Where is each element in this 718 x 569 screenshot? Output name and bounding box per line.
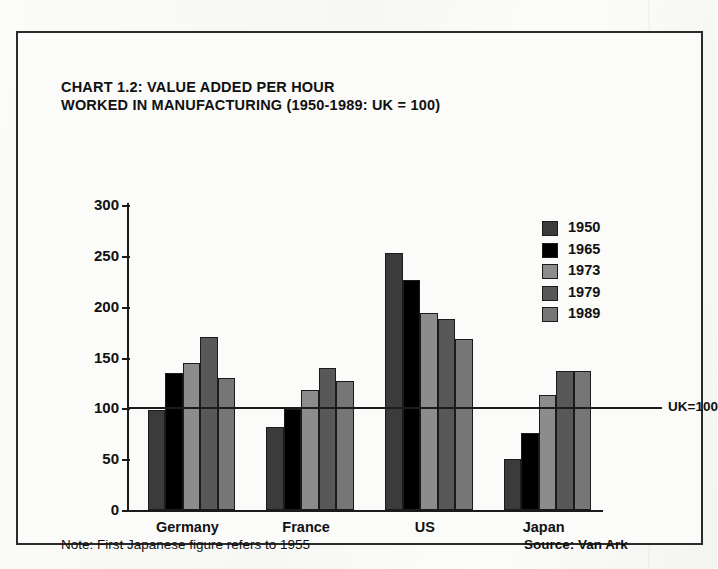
bar-us-1950 [385,253,403,510]
bar-france-1950 [266,427,284,510]
y-tick-label: 50 [102,450,119,467]
x-category-label: Japan [484,519,603,535]
legend-label: 1965 [568,241,600,257]
legend-item-1979: 1979 [542,284,652,306]
page-title: CHART 1.2: VALUE ADDED PER HOUR WORKED I… [61,78,440,114]
legend-item-1989: 1989 [542,305,652,327]
y-tick-label: 200 [94,298,119,315]
bar-group [148,205,236,510]
y-tick-label: 100 [94,399,119,416]
chart-source: Source: Van Ark [524,537,628,552]
bar-japan-1965 [521,433,539,510]
legend-swatch-icon [542,286,558,301]
reference-line-label: UK=100 [668,399,718,414]
bar-france-1965 [284,409,302,510]
chart-note: Note: First Japanese figure refers to 19… [61,537,310,552]
legend-label: 1989 [568,305,600,321]
x-category-label: France [247,519,366,535]
y-tick-label: 300 [94,196,119,213]
reference-line [128,407,662,409]
plot-area [128,205,603,510]
legend-item-1973: 1973 [542,262,652,284]
bar-group [385,205,473,510]
y-tick-label: 250 [94,247,119,264]
bar-group [266,205,354,510]
legend-item-1965: 1965 [542,241,652,263]
bar-germany-1989 [218,378,236,510]
title-line-1: CHART 1.2: VALUE ADDED PER HOUR [61,79,335,95]
bar-us-1973 [420,313,438,510]
chart-frame: CHART 1.2: VALUE ADDED PER HOUR WORKED I… [16,31,703,545]
bar-us-1989 [455,339,473,510]
legend-label: 1979 [568,284,600,300]
bar-japan-1973 [539,395,557,510]
legend-swatch-icon [542,221,558,236]
bar-germany-1979 [200,337,218,510]
bar-us-1965 [403,280,421,510]
y-tick-label: 150 [94,349,119,366]
bar-japan-1979 [556,371,574,510]
title-line-2: WORKED IN MANUFACTURING (1950-1989: UK =… [61,97,440,113]
bar-us-1979 [438,319,456,510]
bar-france-1979 [319,368,337,510]
bar-japan-1989 [574,371,592,510]
legend-item-1950: 1950 [542,219,652,241]
bar-germany-1965 [165,373,183,510]
y-tick-label: 0 [111,501,119,518]
bar-germany-1950 [148,410,166,510]
legend-label: 1950 [568,219,600,235]
legend-swatch-icon [542,264,558,279]
bar-germany-1973 [183,363,201,510]
y-axis-labels: 050100150200250300 [71,205,119,510]
bar-japan-1950 [504,459,522,510]
legend-label: 1973 [568,262,600,278]
bar-france-1989 [336,381,354,510]
x-category-label: US [366,519,485,535]
x-axis-line [127,510,603,512]
legend-swatch-icon [542,307,558,322]
legend: 19501965197319791989 [542,219,652,327]
legend-swatch-icon [542,243,558,258]
x-category-label: Germany [128,519,247,535]
